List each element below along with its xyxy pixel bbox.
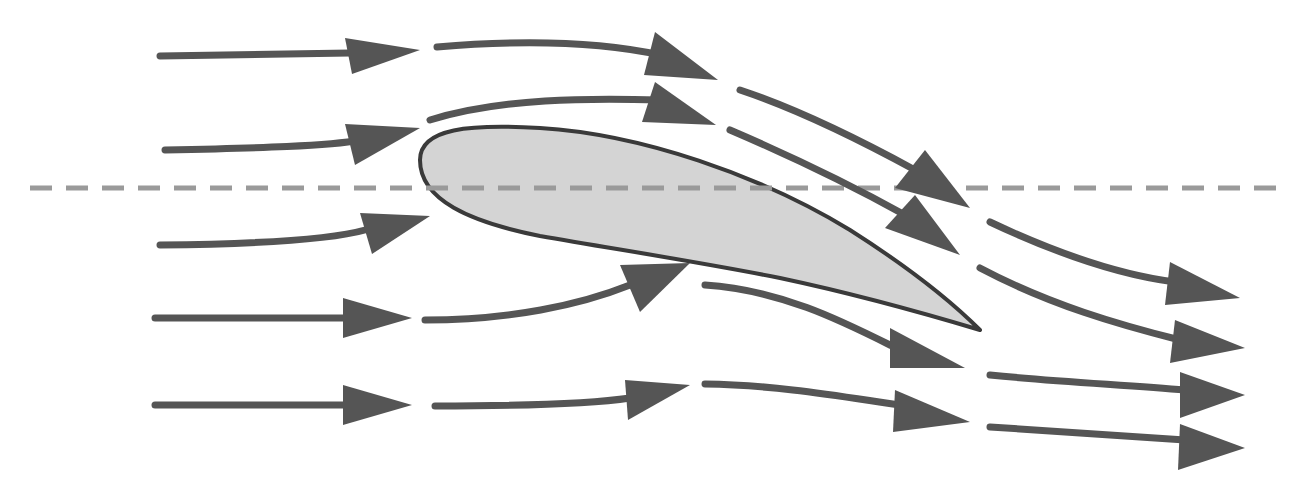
arrow-shaft: [160, 53, 350, 56]
airfoil-flow-diagram: [0, 0, 1312, 495]
